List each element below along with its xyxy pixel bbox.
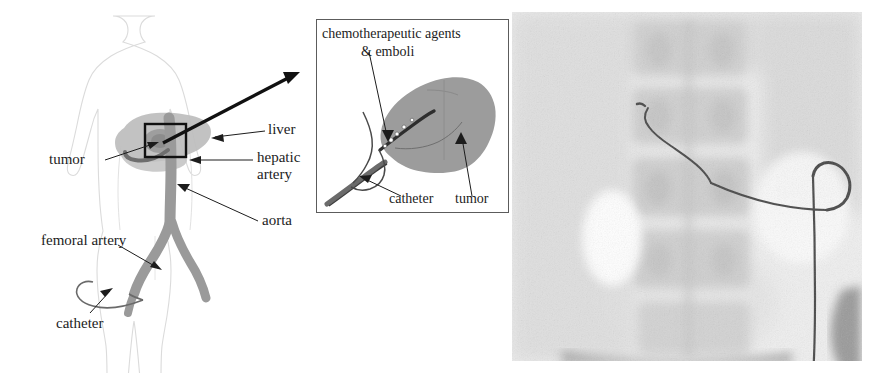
label-hepatic-artery-line2: artery: [257, 167, 292, 183]
angiogram-svg: [512, 12, 862, 361]
figure-chemoembolization: tumor liver hepatic artery aorta femoral…: [0, 0, 878, 373]
inset-label-catheter: catheter: [389, 192, 433, 207]
magnified-inset-panel: chemotherapeutic agents & emboli cathete…: [316, 19, 509, 213]
xray-wash: [512, 12, 862, 361]
inset-tumor-mass: [380, 77, 495, 173]
angiogram-panel: [512, 12, 862, 361]
inset-title-line2: & emboli: [361, 45, 414, 60]
label-femoral-artery: femoral artery: [41, 233, 126, 249]
inset-catheter-shaft: [327, 162, 385, 204]
label-aorta: aorta: [262, 213, 292, 229]
label-liver: liver: [268, 122, 296, 138]
label-hepatic-artery-line1: hepatic: [257, 150, 300, 166]
inset-label-tumor: tumor: [455, 192, 488, 207]
body-schematic-panel: tumor liver hepatic artery aorta femoral…: [0, 0, 312, 373]
label-catheter: catheter: [56, 316, 103, 332]
label-tumor: tumor: [49, 152, 85, 168]
body-schematic-svg: [0, 0, 312, 373]
inset-title-line1: chemotherapeutic agents: [322, 27, 461, 42]
